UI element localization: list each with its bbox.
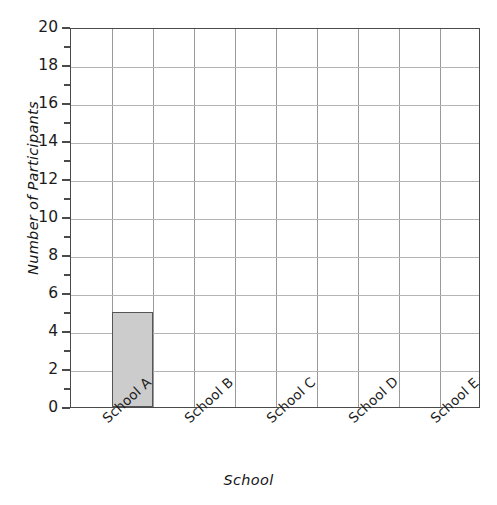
gridline-vertical (276, 29, 277, 407)
gridline-horizontal (71, 257, 479, 258)
y-tick-major (62, 369, 70, 371)
y-tick-label: 2 (12, 362, 58, 378)
x-axis-title: School (0, 472, 497, 488)
y-tick-major (62, 217, 70, 219)
gridline-horizontal (71, 181, 479, 182)
y-tick-label: 0 (12, 400, 58, 416)
y-tick-major (62, 255, 70, 257)
bar-chart: Number of Participants 02468101214161820… (0, 0, 497, 505)
y-tick-label: 8 (12, 248, 58, 264)
y-tick-label: 16 (12, 96, 58, 112)
y-tick-label: 6 (12, 286, 58, 302)
y-tick-label: 14 (12, 134, 58, 150)
gridline-horizontal (71, 295, 479, 296)
gridline-vertical (317, 29, 318, 407)
y-tick-major (62, 65, 70, 67)
gridline-vertical (235, 29, 236, 407)
gridline-vertical (399, 29, 400, 407)
gridline-vertical (153, 29, 154, 407)
gridline-horizontal (71, 143, 479, 144)
y-tick-major (62, 407, 70, 409)
y-tick-label: 20 (12, 20, 58, 36)
y-tick-label: 10 (12, 210, 58, 226)
y-tick-major (62, 141, 70, 143)
y-tick-major (62, 293, 70, 295)
plot-area (70, 28, 480, 408)
y-tick-label: 4 (12, 324, 58, 340)
y-tick-major (62, 27, 70, 29)
y-tick-major (62, 103, 70, 105)
gridline-horizontal (71, 105, 479, 106)
y-tick-major (62, 331, 70, 333)
gridline-horizontal (71, 219, 479, 220)
gridline-vertical (194, 29, 195, 407)
gridline-horizontal (71, 67, 479, 68)
y-tick-label: 12 (12, 172, 58, 188)
y-tick-major (62, 179, 70, 181)
gridline-vertical (440, 29, 441, 407)
gridline-vertical (358, 29, 359, 407)
y-tick-label: 18 (12, 58, 58, 74)
